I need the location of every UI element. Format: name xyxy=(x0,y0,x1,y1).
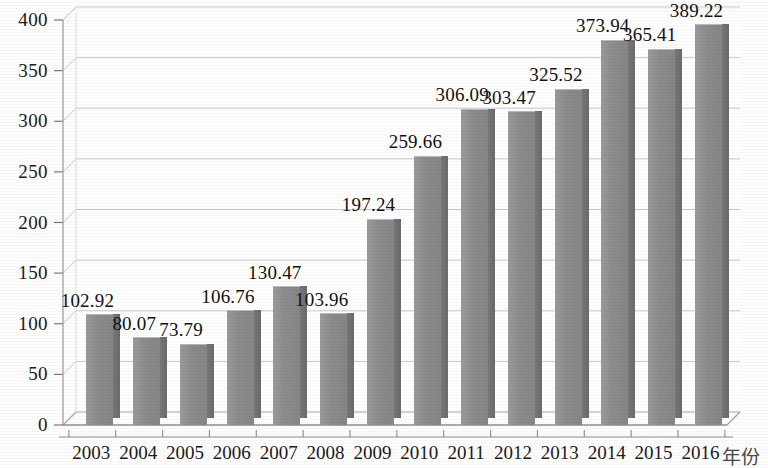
bar xyxy=(461,109,495,425)
bar-front-face xyxy=(86,314,113,425)
bar-value-label: 303.47 xyxy=(482,87,535,109)
y-axis-tick-label: 150 xyxy=(0,262,48,284)
bar-front-face xyxy=(695,24,722,425)
bar-front-face xyxy=(180,344,207,425)
bar-value-label: 197.24 xyxy=(342,194,395,216)
bar xyxy=(695,24,729,425)
bar-front-face xyxy=(555,89,582,425)
x-axis-tick-label: 2006 xyxy=(213,442,251,464)
bar-value-label: 306.09 xyxy=(436,84,489,106)
x-axis-title: 年份 xyxy=(722,442,760,468)
y-axis-tick-label: 350 xyxy=(0,60,48,82)
bar-side-face xyxy=(628,40,635,419)
x-axis-tick-label: 2008 xyxy=(307,442,345,464)
bar-front-face xyxy=(227,310,254,425)
bar-value-label: 106.76 xyxy=(201,286,254,308)
y-axis-tick-label: 0 xyxy=(0,414,48,436)
bar xyxy=(367,219,401,425)
bar-value-label: 73.79 xyxy=(159,319,203,341)
bar xyxy=(601,40,635,425)
bar-front-face xyxy=(461,109,488,425)
x-axis-tick-label: 2010 xyxy=(400,442,438,464)
bar-side-face xyxy=(488,109,495,419)
x-axis-tick-label: 2007 xyxy=(260,442,298,464)
bar xyxy=(648,49,682,425)
bar-side-face xyxy=(535,111,542,418)
bar-value-label: 130.47 xyxy=(248,262,301,284)
bar-front-face xyxy=(508,111,535,425)
bar-value-label: 80.07 xyxy=(112,313,156,335)
x-axis-tick-label: 2013 xyxy=(541,442,579,464)
bar-value-label: 373.94 xyxy=(576,15,629,37)
x-axis-tick-label: 2012 xyxy=(494,442,532,464)
bar-side-face xyxy=(441,156,448,419)
bar xyxy=(227,310,261,425)
x-axis-tick-label: 2015 xyxy=(635,442,673,464)
bar-side-face xyxy=(722,24,729,418)
bar-side-face xyxy=(160,337,167,418)
y-axis-tick-label: 250 xyxy=(0,161,48,183)
bar-side-face xyxy=(207,344,214,419)
y-axis-tick-label: 50 xyxy=(0,363,48,385)
x-axis-tick-label: 2004 xyxy=(119,442,157,464)
bar-value-label: 259.66 xyxy=(389,131,442,153)
bar-side-face xyxy=(254,310,261,418)
bar xyxy=(555,89,589,425)
bar-value-label: 365.41 xyxy=(623,24,676,46)
x-axis-tick-label: 2014 xyxy=(588,442,626,464)
bar-side-face xyxy=(675,49,682,419)
bar-value-label: 325.52 xyxy=(529,64,582,86)
x-axis-tick-label: 2011 xyxy=(447,442,484,464)
bar-value-label: 102.92 xyxy=(61,290,114,312)
bar-front-face xyxy=(648,49,675,425)
bar-value-label: 103.96 xyxy=(295,289,348,311)
bar-side-face xyxy=(394,219,401,419)
bar-front-face xyxy=(320,313,347,425)
bar-front-face xyxy=(414,156,441,425)
bar-chart: 050100150200250300350400 102.9280.0773.7… xyxy=(0,0,768,468)
bar-side-face xyxy=(347,313,354,418)
x-axis-tick-label: 2005 xyxy=(166,442,204,464)
y-axis-tick-label: 300 xyxy=(0,110,48,132)
bar-front-face xyxy=(367,219,394,425)
y-axis-tick-label: 400 xyxy=(0,9,48,31)
x-axis-tick-label: 2003 xyxy=(72,442,110,464)
y-axis-tick-label: 200 xyxy=(0,212,48,234)
y-axis-tick-label: 100 xyxy=(0,313,48,335)
bar xyxy=(508,111,542,425)
bar-value-label: 389.22 xyxy=(670,0,723,22)
x-axis-tick-label: 2009 xyxy=(353,442,391,464)
x-axis-tick-label: 2016 xyxy=(681,442,719,464)
bar xyxy=(180,344,214,425)
bar-side-face xyxy=(582,89,589,419)
bar xyxy=(133,337,167,425)
bar-front-face xyxy=(133,337,160,425)
bar-front-face xyxy=(601,40,628,425)
bar xyxy=(320,313,354,425)
bar xyxy=(414,156,448,425)
